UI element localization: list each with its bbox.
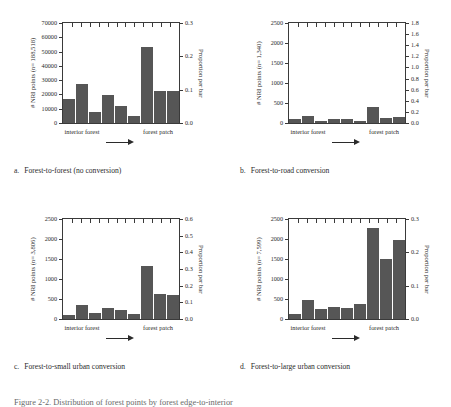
panel-c-ylabel-right-4: 0.4 — [185, 249, 193, 255]
panel-c-ytick-right-2 — [179, 286, 183, 287]
panel-b-top-tick-10 — [378, 23, 379, 27]
panel-b-ylabel-left-4: 2000 — [271, 40, 283, 46]
panel-c-bar-6 — [128, 314, 141, 319]
panel-b-bar-6 — [354, 121, 367, 123]
panel-b-ytick-right-8 — [405, 34, 409, 35]
panel-b-bar-4 — [328, 119, 341, 123]
panel-b-ylabel-left-3: 1500 — [271, 60, 283, 66]
panel-c-ytick-right-5 — [179, 236, 183, 237]
panel-c-ytick-right-4 — [179, 252, 183, 253]
panel-c-top-tick-8 — [134, 219, 135, 223]
panel-b-ytick-left-3 — [285, 63, 289, 64]
panel-b-top-tick-7 — [351, 23, 352, 27]
panel-a-top-tick-8 — [134, 23, 135, 27]
panel-b-xlabel-interior-forest: interior forest — [285, 128, 331, 137]
arrow-head — [354, 139, 360, 145]
figure-caption: Figure 2-2. Distribution of forest point… — [14, 398, 233, 407]
panel-d-caption-letter: d. — [240, 362, 246, 371]
panel-d-x-annotations: interior forest forest patch — [288, 324, 406, 350]
panel-b-plot-area: 050010001500200025000.00.20.40.60.81.01.… — [288, 22, 406, 124]
panel-d-bar-3 — [315, 309, 328, 319]
panel-d-ytick-right-1 — [405, 286, 409, 287]
panel-c-caption-letter: c. — [14, 362, 19, 371]
panel-c-y-axis-left-title: # NRI points (n= 3,806) — [27, 218, 37, 320]
panel-d-bar-series — [289, 219, 405, 319]
panel-b-y-axis-left-title: # NRI points (n= 1,340) — [253, 22, 263, 124]
panel-b-ytick-left-1 — [285, 103, 289, 104]
panel-d-bar-1 — [289, 314, 302, 319]
figure-page: # NRI points (n= 188,518) Proportion per… — [0, 0, 451, 407]
panel-a-ytick-left-3 — [59, 80, 63, 81]
panel-b-bar-1 — [289, 119, 302, 123]
panel-a-top-tick-7 — [125, 23, 126, 27]
panel-b-ylabel-left-2: 1000 — [271, 80, 283, 86]
panel-a-bar-7 — [141, 47, 154, 123]
panel-c-ylabel-left-0: 0 — [54, 316, 57, 322]
panel-b-top-tick-8 — [360, 23, 361, 27]
panel-c-top-tick-1 — [72, 219, 73, 223]
panel-a-ytick-right-2 — [179, 56, 183, 57]
panel-b-ylabel-right-0: 0.0 — [411, 120, 419, 126]
panel-b-ytick-right-6 — [405, 56, 409, 57]
arrow-shaft — [106, 338, 130, 339]
panel-d-ylabel-left-2: 1000 — [271, 276, 283, 282]
panel-d-y-axis-left-title: # NRI points (n= 7,599) — [253, 218, 263, 320]
panel-b-ytick-right-0 — [405, 123, 409, 124]
panel-c-ylabel-left-1: 500 — [48, 296, 57, 302]
panel-b-bar-3 — [315, 121, 328, 123]
panel-c-ylabel-right-1: 0.1 — [185, 299, 193, 305]
arrow-shaft — [106, 142, 130, 143]
panel-d-ylabel-left-0: 0 — [280, 316, 283, 322]
panel-c-ytick-right-6 — [179, 219, 183, 220]
panel-b-ylabel-right-6: 1.2 — [411, 53, 419, 59]
panel-b-bar-8 — [380, 118, 393, 123]
panel-b-top-tick-5 — [334, 23, 335, 27]
panel-d-ytick-left-0 — [285, 319, 289, 320]
panel-c-ytick-right-0 — [179, 319, 183, 320]
panel-a-top-tick-1 — [72, 23, 73, 27]
panel-a-ylabel-right-1: 0.1 — [185, 87, 193, 93]
panel-d-top-tick-4 — [325, 219, 326, 223]
panel-b-caption: b.Forest-to-road conversion — [240, 166, 329, 175]
panel-d-caption: d.Forest-to-large urban conversion — [240, 362, 350, 371]
panel-c-ytick-left-5 — [59, 219, 63, 220]
panel-d-bar-6 — [354, 304, 367, 319]
panel-a-ylabel-right-2: 0.2 — [185, 53, 193, 59]
panel-d-ylabel-right-2: 0.2 — [411, 249, 419, 255]
panel-b: # NRI points (n= 1,340) Proportion per b… — [226, 0, 451, 193]
panel-d-top-tick-12 — [396, 219, 397, 223]
panel-a-top-tick-2 — [81, 23, 82, 27]
panel-c-caption: c.Forest-to-small urban conversion — [14, 362, 125, 371]
panel-a-bar-5 — [115, 106, 128, 123]
panel-b-top-tick-2 — [307, 23, 308, 27]
panel-b-ylabel-right-3: 0.6 — [411, 87, 419, 93]
panel-c-y-axis-right-title: Proportion per bar — [196, 218, 206, 320]
panel-b-ylabel-right-5: 1.0 — [411, 64, 419, 70]
panel-b-bar-5 — [341, 119, 354, 123]
panel-c-top-tick-3 — [90, 219, 91, 223]
arrow-shaft — [332, 338, 356, 339]
panel-a-bar-3 — [89, 112, 102, 123]
right-arrow-icon — [106, 334, 136, 342]
panel-d-top-tick-5 — [334, 219, 335, 223]
panel-a-ytick-right-1 — [179, 90, 183, 91]
panel-d-y-axis-right-title: Proportion per bar — [422, 218, 432, 320]
panel-c-caption-text: Forest-to-small urban conversion — [24, 362, 125, 371]
panel-b-ylabel-right-1: 0.2 — [411, 109, 419, 115]
panel-b-ylabel-right-9: 1.8 — [411, 20, 419, 26]
panel-d-ylabel-left-1: 500 — [274, 296, 283, 302]
panel-a-top-tick-5 — [108, 23, 109, 27]
panel-b-top-tick-6 — [343, 23, 344, 27]
panel-c-top-tick-9 — [143, 219, 144, 223]
panel-d-ytick-left-3 — [285, 259, 289, 260]
panel-d-top-tick-7 — [351, 219, 352, 223]
panel-b-top-tick-3 — [316, 23, 317, 27]
panel-a-ytick-right-3 — [179, 23, 183, 24]
panel-c-top-tick-2 — [81, 219, 82, 223]
panel-c-bar-8 — [154, 294, 167, 319]
panel-b-top-tick-11 — [387, 23, 388, 27]
panel-c-ytick-right-1 — [179, 302, 183, 303]
panel-b-xlabel-forest-patch: forest patch — [361, 128, 407, 137]
panel-d-top-tick-11 — [387, 219, 388, 223]
panel-d-ylabel-right-1: 0.1 — [411, 283, 419, 289]
